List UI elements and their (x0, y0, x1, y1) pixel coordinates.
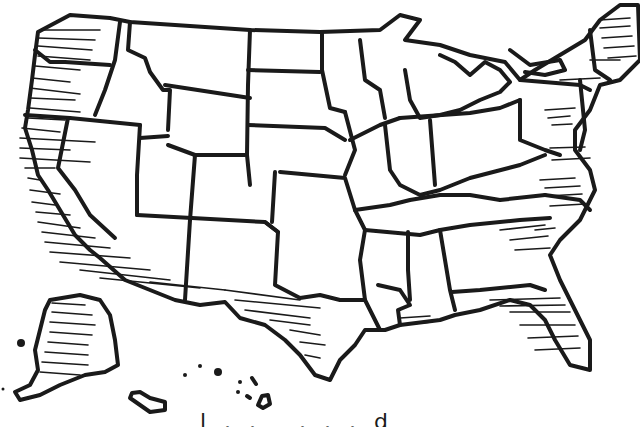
hawaii-inset (130, 364, 270, 412)
caption-fragment: l.. ...d (200, 411, 406, 427)
alaska-inset (2, 295, 119, 400)
us-outline-map (0, 0, 640, 427)
